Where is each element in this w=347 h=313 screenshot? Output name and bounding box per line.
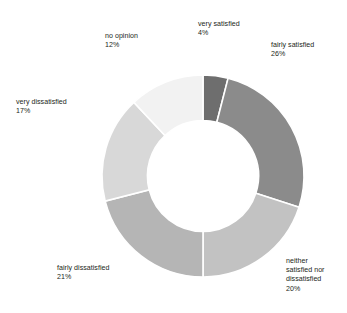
- slice-label-text: no opinion: [105, 32, 138, 40]
- slice-label-percent: 4%: [198, 29, 240, 38]
- slice-label-no-opinion: no opinion 12%: [105, 32, 138, 50]
- slice-label-text-line2: satisfied nor: [286, 266, 325, 275]
- donut-slice-neither-satisfied-nor-dissatisfied[interactable]: [203, 193, 299, 277]
- slice-label-very-dissatisfied: very dissatisfied 17%: [16, 98, 67, 116]
- slice-label-fairly-dissatisfied: fairly dissatisfied 21%: [57, 264, 109, 282]
- slice-label-text: very satisfied: [198, 20, 240, 28]
- slice-label-percent: 21%: [57, 273, 109, 282]
- slice-label-neither-satisfied-nor-dissatisfied: neither satisfied nor dissatisfied 20%: [286, 257, 325, 294]
- donut-slice-fairly-satisfied[interactable]: [217, 78, 304, 207]
- slice-label-percent: 26%: [271, 50, 314, 59]
- slice-label-text: fairly dissatisfied: [57, 264, 109, 272]
- donut-slice-group: [102, 75, 304, 277]
- slice-label-text: very dissatisfied: [16, 98, 67, 106]
- slice-label-percent: 17%: [16, 107, 67, 116]
- slice-label-very-satisfied: very satisfied 4%: [198, 20, 240, 38]
- slice-label-fairly-satisfied: fairly satisfied 26%: [271, 41, 314, 59]
- slice-label-text-line3: dissatisfied: [286, 275, 325, 284]
- slice-label-percent: 20%: [286, 285, 325, 294]
- donut-chart-figure: very satisfied 4% fairly satisfied 26% n…: [0, 0, 347, 313]
- slice-label-text-line1: neither: [286, 257, 308, 265]
- slice-label-text: fairly satisfied: [271, 41, 314, 49]
- slice-label-percent: 12%: [105, 41, 138, 50]
- donut-slice-fairly-dissatisfied[interactable]: [105, 190, 203, 277]
